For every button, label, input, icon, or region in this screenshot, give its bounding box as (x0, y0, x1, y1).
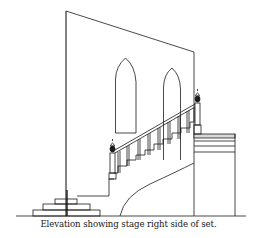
top-newel-post (194, 89, 201, 134)
landing-platform (194, 134, 235, 216)
balusters (118, 110, 189, 173)
stair-stringer (120, 163, 194, 216)
back-wall (66, 11, 194, 216)
stair-treads (114, 108, 194, 173)
handrail (115, 104, 195, 153)
left-arched-window (116, 58, 137, 133)
figure-caption: Elevation showing stage right side of se… (0, 219, 257, 229)
bottom-newel-post (109, 139, 116, 179)
elevation-drawing (0, 0, 257, 238)
